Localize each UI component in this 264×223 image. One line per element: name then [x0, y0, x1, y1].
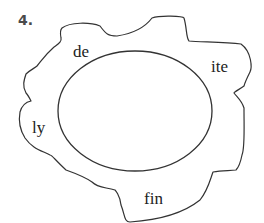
affix-fin: fin [144, 189, 163, 209]
affix-de: de [73, 42, 89, 62]
word-web-diagram [0, 0, 264, 223]
affix-ite: ite [211, 57, 228, 77]
affix-ly: ly [32, 118, 45, 138]
